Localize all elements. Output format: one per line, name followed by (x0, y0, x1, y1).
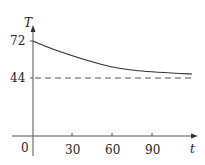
x-tick-label-0: 0 (21, 141, 29, 155)
chart: T 72 44 0 30 60 90 t (0, 0, 205, 165)
x-tick-label-30: 30 (65, 143, 80, 157)
y-tick-label-72: 72 (10, 34, 25, 48)
x-tick-label-90: 90 (145, 143, 160, 157)
x-tick-label-60: 60 (105, 143, 120, 157)
x-axis-arrow-icon (191, 134, 198, 139)
y-axis-label: T (24, 16, 33, 30)
temperature-curve (33, 41, 192, 74)
y-tick-label-44: 44 (10, 71, 26, 85)
x-axis-label: t (190, 142, 195, 156)
